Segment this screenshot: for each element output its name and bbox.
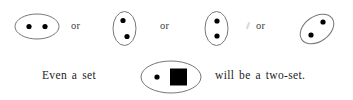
connector-or-1: or (71, 21, 80, 32)
set-element-dot (320, 19, 325, 24)
set-outline-ellipse (113, 12, 136, 46)
connector-or-2: or (160, 21, 169, 32)
set-outline-ellipse (295, 8, 340, 50)
two-set-dot-and-square-svg (140, 60, 202, 94)
set-element-dot (124, 34, 129, 39)
scan-artifact-tick (246, 22, 250, 29)
two-set-tilted-svg (297, 10, 337, 48)
set-element-square (170, 69, 187, 86)
two-set-vertical-diagonal-svg (110, 10, 139, 47)
two-set-dot-and-square (140, 60, 202, 94)
set-element-dot (120, 18, 125, 23)
caption-text-after: will be a two-set. (215, 70, 305, 82)
two-set-vertical-stacked-svg (202, 10, 231, 47)
two-set-tilted (297, 10, 337, 48)
connector-or-3: or (256, 21, 265, 32)
caption-text-before: Even a set (42, 70, 96, 82)
two-set-vertical-diagonal (110, 10, 139, 47)
set-element-dot (26, 24, 31, 29)
set-element-dot (214, 33, 219, 38)
set-element-dot (42, 24, 47, 29)
set-element-dot (154, 74, 159, 79)
two-set-horizontal (14, 13, 60, 40)
set-element-dot (308, 32, 313, 37)
tilt-group (295, 8, 340, 50)
two-set-horizontal-svg (14, 13, 60, 40)
set-outline-ellipse (205, 12, 228, 46)
two-set-vertical-stacked (202, 10, 231, 47)
set-element-dot (214, 18, 219, 23)
set-theory-figure: or or or Even a set (0, 0, 353, 100)
set-outline-ellipse (15, 14, 59, 39)
